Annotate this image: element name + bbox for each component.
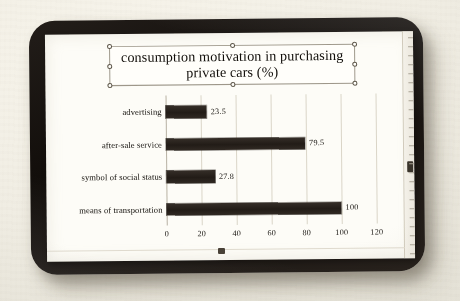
x-tick-label-40: 40 bbox=[232, 229, 241, 238]
selection-handle-top-center[interactable] bbox=[230, 43, 235, 48]
bar[interactable] bbox=[167, 201, 342, 215]
selection-handle-bottom-right[interactable] bbox=[352, 81, 357, 86]
ruler-tick bbox=[409, 127, 414, 128]
chart-title-text: consumption motivation in purchasing pri… bbox=[118, 48, 347, 82]
category-label: after-sale service bbox=[45, 139, 162, 150]
ruler-tick bbox=[408, 82, 413, 83]
bottom-resize-handle[interactable] bbox=[218, 248, 225, 254]
selection-handle-middle-left[interactable] bbox=[107, 64, 112, 69]
bar-value-label: 27.8 bbox=[219, 172, 234, 181]
screen-bezel-frame: consumption motivation in purchasing pri… bbox=[29, 17, 425, 275]
slide-canvas[interactable]: consumption motivation in purchasing pri… bbox=[45, 31, 415, 262]
bar-row[interactable]: advertising23.5 bbox=[166, 94, 376, 129]
x-axis-tick-labels: 020406080100120 bbox=[167, 228, 377, 244]
ruler-tick bbox=[409, 100, 414, 101]
ruler-tick bbox=[410, 235, 415, 236]
ruler-tick bbox=[410, 208, 415, 209]
ruler-tick bbox=[410, 217, 415, 218]
bar[interactable] bbox=[166, 105, 207, 118]
ruler-tick bbox=[410, 244, 415, 245]
ruler-tick bbox=[408, 37, 413, 38]
ruler-tick bbox=[409, 118, 414, 119]
ruler-tick bbox=[408, 55, 413, 56]
category-label: symbol of social status bbox=[45, 172, 162, 183]
ruler-tick bbox=[410, 199, 415, 200]
ruler-tick bbox=[409, 136, 414, 137]
selection-handle-bottom-left[interactable] bbox=[107, 83, 112, 88]
ruler-tick bbox=[409, 163, 414, 164]
x-tick-label-80: 80 bbox=[302, 228, 311, 237]
ruler-tick bbox=[408, 64, 413, 65]
ruler-tick bbox=[408, 91, 413, 92]
ruler-tick bbox=[409, 190, 414, 191]
x-tick-label-120: 120 bbox=[370, 228, 383, 237]
ruler-tick bbox=[409, 172, 414, 173]
ruler-tick bbox=[409, 181, 414, 182]
bar-row[interactable]: symbol of social status27.8 bbox=[166, 159, 376, 194]
ruler-tick bbox=[410, 253, 415, 254]
bar[interactable] bbox=[166, 137, 305, 151]
bar-row[interactable]: after-sale service79.5 bbox=[166, 126, 376, 161]
bar-value-label: 23.5 bbox=[211, 107, 226, 116]
x-tick-label-0: 0 bbox=[165, 230, 169, 239]
ruler-tick bbox=[408, 73, 413, 74]
plot-region: advertising23.5after-sale service79.5sym… bbox=[166, 94, 377, 226]
bar-value-label: 100 bbox=[346, 203, 359, 212]
category-label: advertising bbox=[45, 107, 162, 118]
ruler-tick bbox=[409, 145, 414, 146]
bar-chart[interactable]: advertising23.5after-sale service79.5sym… bbox=[45, 87, 405, 258]
x-tick-label-60: 60 bbox=[267, 229, 276, 238]
selection-handle-top-right[interactable] bbox=[352, 42, 357, 47]
x-tick-label-100: 100 bbox=[335, 228, 348, 237]
selection-handle-middle-right[interactable] bbox=[352, 61, 357, 66]
bar-value-label: 79.5 bbox=[309, 138, 324, 147]
ruler-tick bbox=[409, 154, 414, 155]
bar[interactable] bbox=[166, 170, 215, 183]
bar-row[interactable]: means of transportation100 bbox=[166, 191, 376, 226]
vertical-ruler-scrollbar[interactable] bbox=[402, 31, 415, 258]
ruler-tick bbox=[408, 46, 413, 47]
selection-handle-top-left[interactable] bbox=[107, 44, 112, 49]
selection-handle-bottom-center[interactable] bbox=[230, 82, 235, 87]
ruler-tick bbox=[410, 226, 415, 227]
chart-title-textbox[interactable]: consumption motivation in purchasing pri… bbox=[109, 44, 355, 86]
x-tick-label-20: 20 bbox=[197, 229, 206, 238]
category-label: means of transportation bbox=[45, 204, 163, 215]
ruler-tick bbox=[409, 109, 414, 110]
